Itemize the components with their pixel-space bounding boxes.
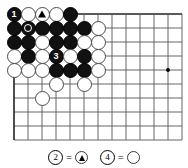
circled-number-label: 4 [100, 150, 115, 165]
stone-black[interactable] [63, 63, 78, 78]
legend-item: 2 = [48, 150, 88, 165]
stone-white[interactable] [91, 35, 106, 50]
white-stone-triangle-icon [75, 151, 88, 164]
stone-black[interactable] [7, 21, 22, 36]
stone-white[interactable] [21, 7, 36, 22]
stone-white[interactable] [91, 49, 106, 64]
stone-white[interactable] [7, 63, 22, 78]
stone-white[interactable] [49, 77, 64, 92]
move-number-label: 3 [50, 50, 63, 63]
stone-black[interactable] [49, 63, 64, 78]
move-number-label: 1 [8, 8, 21, 21]
go-board[interactable]: 13 [0, 0, 188, 146]
stone-black[interactable]: 1 [7, 7, 22, 22]
stone-white[interactable] [91, 63, 106, 78]
stone-white[interactable] [77, 35, 92, 50]
white-stone-plain-icon [127, 151, 140, 164]
stone-white[interactable] [7, 49, 22, 64]
stone-black[interactable] [77, 63, 92, 78]
stone-black[interactable] [63, 21, 78, 36]
go-problem-figure: 13 2 = 4 = [0, 0, 188, 168]
circled-number-label: 2 [48, 150, 63, 165]
star-point [166, 68, 170, 72]
stone-white[interactable] [91, 21, 106, 36]
stone-white[interactable] [35, 49, 50, 64]
stone-black[interactable] [7, 35, 22, 50]
stone-black[interactable] [21, 49, 36, 64]
stone-black[interactable] [63, 7, 78, 22]
stone-white[interactable] [63, 49, 78, 64]
legend-item: 4 = [100, 150, 140, 165]
stone-black[interactable] [49, 21, 64, 36]
circle-mark-icon [24, 24, 32, 32]
stone-black[interactable] [77, 49, 92, 64]
stone-white[interactable] [35, 91, 50, 106]
stone-white[interactable] [35, 63, 50, 78]
triangle-icon [79, 155, 85, 161]
stone-white[interactable] [49, 7, 64, 22]
stone-white[interactable] [35, 35, 50, 50]
stone-black[interactable] [49, 35, 64, 50]
caption-legend: 2 = 4 = [0, 146, 188, 168]
stone-black[interactable] [21, 21, 36, 36]
stone-black[interactable] [63, 35, 78, 50]
stone-white[interactable] [77, 77, 92, 92]
stone-black[interactable]: 3 [49, 49, 64, 64]
stone-black[interactable] [35, 21, 50, 36]
stone-black[interactable] [77, 21, 92, 36]
triangle-mark-icon [38, 11, 46, 18]
stone-black[interactable] [21, 35, 36, 50]
stone-white[interactable] [35, 7, 50, 22]
equals-sign: = [66, 152, 72, 163]
stone-white[interactable] [21, 63, 36, 78]
equals-sign: = [118, 152, 124, 163]
